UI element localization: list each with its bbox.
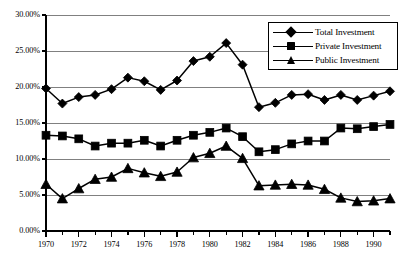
y-tick-label: 30.00% <box>15 10 40 19</box>
x-axis-ticks <box>46 231 390 237</box>
y-tick-label: 10.00% <box>15 154 40 163</box>
legend-entry-total: Total Investment <box>273 25 374 39</box>
x-tick-label: 1990 <box>354 240 394 249</box>
y-tick-label: 0.00% <box>19 226 40 235</box>
legend-marker-triangle-icon <box>273 54 313 66</box>
y-tick-label: 5.00% <box>19 190 40 199</box>
legend-label-private: Private Investment <box>315 41 381 51</box>
y-tick-label: 15.00% <box>15 118 40 127</box>
legend-label-total: Total Investment <box>315 27 374 37</box>
chart-legend: Total Investment Private Investment Publ… <box>268 22 398 70</box>
y-tick-label: 20.00% <box>15 82 40 91</box>
y-tick-label: 25.00% <box>15 46 40 55</box>
legend-entry-private: Private Investment <box>273 39 381 53</box>
investment-line-chart: 0.00%5.00%10.00%15.00%20.00%25.00%30.00%… <box>0 0 406 261</box>
legend-entry-public: Public Investment <box>273 53 379 67</box>
legend-label-public: Public Investment <box>315 55 379 65</box>
legend-marker-diamond-icon <box>273 26 313 38</box>
legend-marker-square-icon <box>273 40 313 52</box>
series-public-investment <box>41 141 395 206</box>
